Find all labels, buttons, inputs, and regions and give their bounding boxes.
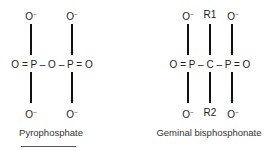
r2-group: R2 [204,108,217,118]
r1-group: R1 [204,10,217,20]
bond-line [187,72,189,103]
oxygen-anion-bottom-right: O− [66,107,77,120]
pyrophosphate-label: Pyrophosphate [19,128,83,138]
oxygen-anion-top-right: O− [66,9,77,22]
oxygen-anion-bottom-left: O− [25,107,36,120]
oxygen-anion-bottom-right: O− [227,107,238,120]
bond-line [209,72,211,103]
bond-line [231,72,233,103]
bond-line [71,24,73,55]
divider-rule [21,146,76,147]
bond-line [30,24,32,55]
oxygen-anion-top-left: O− [25,9,36,22]
bisphosphonate-backbone: O = P – C – P = O [170,60,251,70]
oxygen-anion-top-left: O− [182,9,193,22]
oxygen-anion-top-right: O− [227,9,238,22]
oxygen-anion-bottom-left: O− [182,107,193,120]
pyrophosphate-backbone: O = P – O – P = O [11,60,92,70]
bond-line [30,72,32,103]
bond-line [209,24,211,55]
bond-line [71,72,73,103]
bisphosphonate-label: Geminal bisphosphonate [156,128,261,138]
bond-line [231,24,233,55]
bond-line [187,24,189,55]
